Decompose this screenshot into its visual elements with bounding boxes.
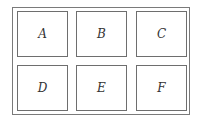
cell-label: A: [38, 27, 47, 41]
cell-label: B: [97, 27, 106, 41]
cell-label: F: [157, 81, 165, 95]
cell-d: D: [17, 65, 68, 111]
cell-e: E: [76, 65, 127, 111]
cell-a: A: [17, 11, 68, 57]
cell-label: E: [97, 81, 106, 95]
cell-label: D: [38, 81, 48, 95]
cell-b: B: [76, 11, 127, 57]
cell-c: C: [136, 11, 187, 57]
cell-f: F: [136, 65, 187, 111]
cell-label: C: [157, 27, 166, 41]
